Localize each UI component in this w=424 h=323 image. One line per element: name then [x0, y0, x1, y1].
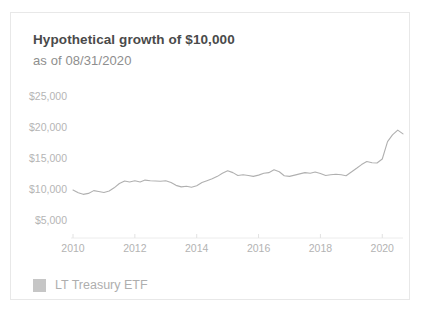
series-line-chart: [11, 13, 411, 301]
clipped-footer-text: [62, 313, 402, 322]
series-line-lt-treasury-etf: [73, 130, 403, 194]
legend-label-lt-treasury-etf: LT Treasury ETF: [55, 278, 148, 292]
chart-legend: LT Treasury ETF: [33, 278, 148, 292]
legend-swatch-lt-treasury-etf: [33, 279, 46, 292]
plot-area: $25,000$20,000$15,000$10,000$5,000 20102…: [11, 13, 411, 301]
chart-card: Hypothetical growth of $10,000 as of 08/…: [10, 12, 410, 300]
